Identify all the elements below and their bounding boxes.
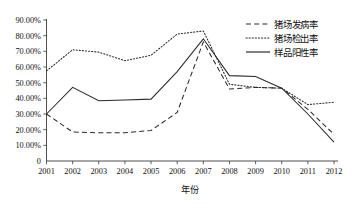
x-tick-label: 2007	[195, 167, 212, 176]
chart-legend: 猪场发病率 猪场检出率 样品阳性率	[245, 17, 349, 59]
y-tick-label: 90.00%	[15, 16, 41, 25]
x-tick-label: 2004	[117, 167, 134, 176]
legend-item-1: 猪场检出率	[245, 31, 349, 45]
x-tick-label: 2005	[143, 167, 160, 176]
x-tick-label: 2003	[90, 167, 107, 176]
x-tick-label: 2008	[221, 167, 238, 176]
x-tick-label: 2001	[38, 167, 55, 176]
legend-label-2: 样品阳性率	[274, 45, 318, 59]
y-tick-label: 70.00%	[15, 47, 41, 56]
y-tick-label: 10.00%	[15, 141, 41, 150]
legend-item-2: 样品阳性率	[245, 45, 349, 59]
legend-item-0: 猪场发病率	[245, 17, 349, 31]
x-tick-label: 2002	[64, 167, 81, 176]
x-tick-label: 2010	[273, 167, 290, 176]
y-tick-label: 30.00%	[15, 110, 41, 119]
x-tick-label: 2006	[169, 167, 186, 176]
x-axis-title: 年份	[181, 184, 199, 195]
y-tick-label: 80.00%	[15, 32, 41, 41]
y-tick-label: 20.00%	[15, 126, 41, 135]
x-axis-ticks: 2001200220032004200520062007200820092010…	[38, 161, 342, 176]
y-tick-label: 0	[37, 157, 41, 166]
y-axis-ticks: 90.00%80.00%70.00%60.00%50.00%40.00%30.0…	[15, 16, 46, 166]
x-tick-label: 2009	[247, 167, 264, 176]
legend-label-1: 猪场检出率	[274, 31, 318, 45]
y-tick-label: 60.00%	[15, 63, 41, 72]
y-tick-label: 40.00%	[15, 94, 41, 103]
line-chart: 90.00%80.00%70.00%60.00%50.00%40.00%30.0…	[0, 0, 353, 204]
legend-line-dashed-icon	[245, 19, 271, 29]
x-tick-label: 2011	[300, 167, 316, 176]
y-tick-label: 50.00%	[15, 79, 41, 88]
legend-line-dotted-icon	[245, 33, 271, 43]
legend-line-solid-icon	[245, 47, 271, 57]
legend-label-0: 猪场发病率	[274, 17, 318, 31]
x-tick-label: 2012	[326, 167, 343, 176]
